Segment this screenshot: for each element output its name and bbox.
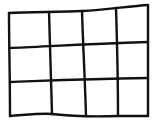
horizontal-line-1 bbox=[9, 42, 148, 48]
vertical-line-1 bbox=[49, 12, 52, 114]
outer-border bbox=[9, 5, 148, 116]
horizontal-line-2 bbox=[10, 78, 148, 82]
inner-vertical-lines bbox=[49, 8, 118, 116]
grid-drawing bbox=[0, 0, 157, 123]
vertical-line-3 bbox=[116, 8, 118, 116]
vertical-line-2 bbox=[82, 11, 86, 116]
inner-horizontal-lines bbox=[9, 42, 148, 82]
top-border-line bbox=[9, 5, 148, 13]
bottom-border-line bbox=[10, 114, 148, 117]
left-border-line bbox=[9, 13, 10, 116]
